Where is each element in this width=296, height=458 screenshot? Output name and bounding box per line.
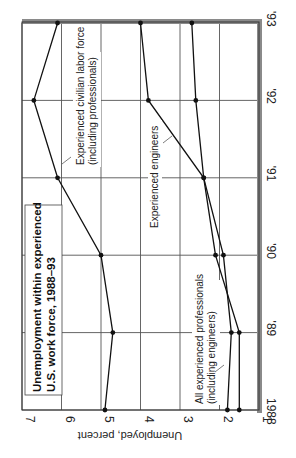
year-tick-label: '93 [264,11,278,27]
data-point [189,21,194,26]
data-point [213,253,218,258]
data-point [237,330,242,335]
data-point [193,98,198,103]
year-tick-label: 1988 [264,398,278,425]
year-tick-label: '92 [264,88,278,104]
data-point [138,21,143,26]
year-tick-label: '89 [264,321,278,337]
data-point [201,175,206,180]
value-tick-label: 3 [181,416,195,423]
annotation-professionals-line-2: (including engineers) [206,311,217,404]
year-tick-label: '90 [264,243,278,259]
annotation-engineers-text: Experienced engineers [149,126,160,228]
data-point [103,408,108,413]
data-point [225,408,230,413]
annotation-engineers: Experienced engineers [148,120,172,230]
annotation-civilian-line-1: Experienced civilian labor force [75,26,86,165]
year-tick-label: '91 [264,166,278,182]
chart-title-line-2: U.S. work force, 1988–93 [45,257,57,392]
data-point [99,253,104,258]
y-axis-label: Unemployed, percent [78,430,183,442]
unemployment-line-chart: 12345671988'89'90'91'92'93 Unemployment … [0,0,296,458]
data-point [229,330,234,335]
annotation-professionals-line-1: All experienced professionals [194,274,205,404]
value-tick-label: 6 [63,416,77,423]
value-tick-label: 2 [221,416,235,423]
data-point [55,21,60,26]
data-point [237,408,242,413]
value-tick-label: 5 [102,416,116,423]
value-tick-label: 7 [23,416,37,423]
chart-title-line-1: Unemployment within experienced [31,202,43,392]
data-point [55,175,60,180]
annotation-civilian-labor-force: Experienced civilian labor force (includ… [62,26,101,167]
data-point [110,330,115,335]
annotation-all-professionals: All experienced professionals (including… [192,274,224,405]
value-tick-label: 4 [142,416,156,423]
annotation-civilian-line-2: (including professionals) [87,57,98,165]
data-point [31,98,36,103]
chart-title-box: Unemployment within experienced U.S. wor… [25,202,62,395]
data-point [146,98,151,103]
data-point [221,253,226,258]
